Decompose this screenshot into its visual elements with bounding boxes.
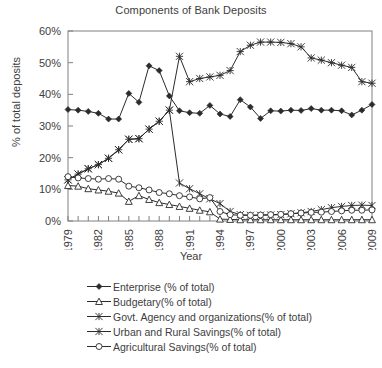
legend-item[interactable]: Budgetary(% of total)	[86, 294, 376, 309]
legend-marker-filled-diamond-icon	[86, 280, 112, 293]
chart-figure: Components of Bank Deposits % of total d…	[0, 0, 382, 368]
y-tick-label: 0%	[45, 215, 61, 227]
legend-label: Urban and Rural Savings(% of total)	[113, 326, 281, 338]
y-tick-label: 30%	[39, 120, 61, 132]
series-line-2	[64, 107, 375, 219]
legend-marker-cross-star-icon	[86, 310, 112, 323]
legend-item[interactable]: Urban and Rural Savings(% of total)	[86, 324, 376, 339]
x-tick-label: 1982	[92, 229, 104, 250]
series-line-4	[65, 174, 375, 219]
legend-item[interactable]: Agricultural Savings(% of total)	[86, 339, 376, 354]
plot-area: 0%10%20%30%40%50%60% 1979198219851988199…	[0, 0, 382, 250]
x-tick-label: 2000	[275, 229, 287, 250]
chart-legend: Enterprise (% of total)Budgetary(% of to…	[86, 279, 376, 354]
x-tick-label: 1991	[184, 229, 196, 250]
x-tick-label: 2009	[366, 229, 378, 250]
x-tick-label: 1979	[62, 229, 74, 250]
x-tick-label: 2006	[336, 229, 348, 250]
legend-label: Govt. Agency and organizations(% of tota…	[113, 311, 312, 323]
legend-marker-asterisk-star-icon	[86, 325, 112, 338]
y-tick-label: 40%	[39, 88, 61, 100]
legend-item[interactable]: Govt. Agency and organizations(% of tota…	[86, 309, 376, 324]
y-tick-label: 10%	[39, 183, 61, 195]
x-tick-label: 1994	[214, 229, 226, 250]
legend-item[interactable]: Enterprise (% of total)	[86, 279, 376, 294]
x-tick-label: 2003	[305, 229, 317, 250]
y-tick-label: 20%	[39, 152, 61, 164]
x-tick-label: 1988	[153, 229, 165, 250]
legend-marker-open-circle-icon	[86, 340, 112, 353]
legend-label: Budgetary(% of total)	[113, 296, 212, 308]
series-line-0	[65, 63, 375, 122]
x-axis-label: Year	[0, 250, 382, 262]
y-tick-label: 60%	[39, 25, 61, 37]
x-tick-label: 1997	[244, 229, 256, 250]
y-tick-label: 50%	[39, 57, 61, 69]
legend-label: Enterprise (% of total)	[113, 281, 215, 293]
x-tick-label: 1985	[123, 229, 135, 250]
legend-label: Agricultural Savings(% of total)	[113, 341, 257, 353]
data-series-layer	[64, 38, 375, 222]
legend-marker-open-triangle-icon	[86, 295, 112, 308]
